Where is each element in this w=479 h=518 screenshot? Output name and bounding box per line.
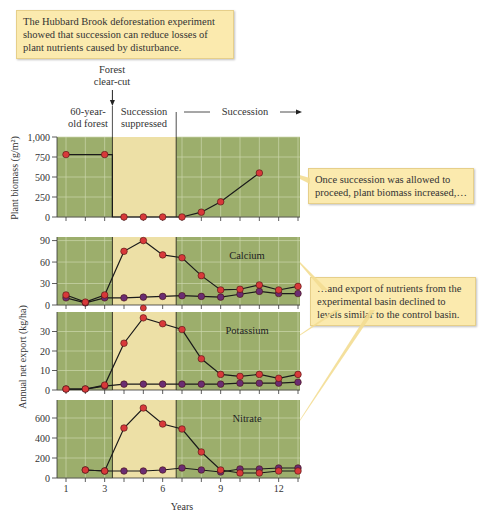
data-point [121,248,128,255]
data-point [237,373,244,380]
svg-text:Plant biomass (g/m²): Plant biomass (g/m²) [9,136,21,220]
svg-text:Years: Years [171,501,193,512]
data-point [198,381,205,388]
svg-text:60: 60 [40,257,50,268]
data-point [295,379,302,386]
svg-text:Calcium: Calcium [229,250,265,261]
data-point [101,292,108,299]
data-point [217,287,224,294]
data-point [217,381,224,388]
data-point [295,371,302,378]
data-point [179,254,186,261]
data-point [295,283,302,290]
data-point [198,293,205,300]
svg-text:10: 10 [40,365,50,376]
data-point [101,151,108,158]
data-point [121,381,128,388]
svg-text:3: 3 [102,483,107,494]
svg-text:1,000: 1,000 [28,132,51,143]
svg-text:20: 20 [40,346,50,357]
data-point [295,468,302,475]
svg-text:0: 0 [45,212,50,223]
svg-text:12: 12 [274,483,284,494]
data-point [101,468,108,475]
svg-text:0: 0 [45,300,50,311]
data-point [217,467,224,474]
panel-calcium: 0306090Calcium [40,235,301,310]
data-point [256,170,263,177]
data-point [256,380,263,387]
data-point [256,470,263,477]
data-point [275,287,282,294]
data-point [275,468,282,475]
data-point [63,151,70,158]
panel-plant-biomass: 02505007501,000 [28,132,301,223]
data-point [179,381,186,388]
data-point [159,467,166,474]
data-point [198,209,205,216]
data-point [101,382,108,389]
data-point [256,371,263,378]
data-point [198,449,205,456]
hubbard-brook-chart: 02505007501,0000306090Calcium0102030Pota… [0,0,479,518]
svg-text:90: 90 [40,235,50,246]
data-point [121,468,128,475]
data-point [179,326,186,333]
data-point [140,237,147,244]
svg-text:400: 400 [35,433,50,444]
data-point [179,426,186,433]
svg-text:Annual net export (kg/ha): Annual net export (kg/ha) [17,305,29,409]
data-point [159,252,166,259]
data-point [82,299,89,306]
data-point [256,288,263,295]
data-point [198,356,205,363]
data-point [198,272,205,279]
svg-text:200: 200 [35,453,50,464]
data-point [121,214,128,221]
panel-potassium: 0102030Potassium [40,312,301,396]
data-point [256,282,263,289]
data-point [275,375,282,382]
data-point [140,405,147,412]
panel-nitrate: 0200400600Nitrate [35,400,301,484]
data-point [159,214,166,221]
data-point [237,470,244,477]
data-point [140,315,147,322]
data-point [179,292,186,299]
svg-text:600: 600 [35,413,50,424]
data-point [121,340,128,347]
svg-text:500: 500 [35,172,50,183]
data-point [140,294,147,301]
svg-text:6: 6 [160,483,165,494]
svg-text:30: 30 [40,278,50,289]
data-point [82,386,89,393]
svg-text:750: 750 [35,152,50,163]
data-point [140,381,147,388]
svg-text:Nitrate: Nitrate [232,413,261,424]
data-point [179,465,186,472]
data-point [159,293,166,300]
data-point [179,214,186,221]
data-point [63,292,70,299]
svg-text:Potassium: Potassium [225,325,268,336]
data-point [217,199,224,206]
data-point [82,467,89,474]
data-point [217,294,224,301]
data-point [198,467,205,474]
data-point [63,386,70,393]
data-point [140,468,147,475]
data-point [159,381,166,388]
svg-text:30: 30 [40,326,50,337]
data-point [237,286,244,293]
data-point [159,421,166,428]
data-point [140,214,147,221]
data-point [237,380,244,387]
data-point [121,295,128,302]
data-point [295,290,302,297]
svg-text:9: 9 [218,483,223,494]
svg-text:0: 0 [45,385,50,396]
data-point [121,425,128,432]
svg-text:250: 250 [35,192,50,203]
svg-text:1: 1 [64,483,69,494]
data-point [217,371,224,378]
